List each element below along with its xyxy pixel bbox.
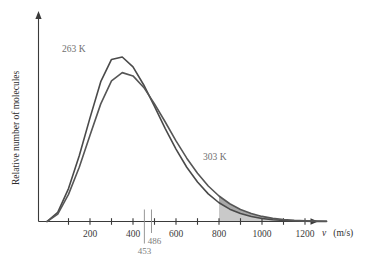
marker-label-486: 486 bbox=[148, 236, 162, 246]
y-axis-arrowhead bbox=[35, 11, 41, 19]
curve-annotation-303K: 303 K bbox=[203, 152, 227, 162]
x-axis-title-units: (m/s) bbox=[333, 228, 353, 239]
x-axis-title: v (m/s) bbox=[322, 222, 353, 239]
maxwell-boltzmann-distribution-chart: 200 400 600 800 1000 1200 486 453 263 K … bbox=[0, 0, 375, 271]
x-axis-title-symbol: v bbox=[322, 228, 327, 238]
curve-303K-main bbox=[47, 73, 327, 222]
x-tick-label-200: 200 bbox=[83, 229, 98, 239]
y-axis-title: Relative number of molecules bbox=[11, 70, 21, 185]
x-tick-label-1200: 1200 bbox=[296, 229, 315, 239]
chart-page: 200 400 600 800 1000 1200 486 453 263 K … bbox=[0, 0, 375, 271]
x-tick-label-800: 800 bbox=[212, 229, 227, 239]
x-tick-label-600: 600 bbox=[169, 229, 184, 239]
curve-annotation-263K: 263 K bbox=[62, 44, 86, 54]
marker-label-453: 453 bbox=[138, 246, 152, 256]
x-tick-label-1000: 1000 bbox=[253, 229, 272, 239]
x-tick-label-400: 400 bbox=[126, 229, 141, 239]
